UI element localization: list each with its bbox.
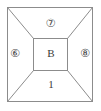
figure-container: ⑦ ⑥ ⑧ B 1 [0,0,101,111]
region-label-bottom: 1 [33,79,69,90]
region-label-top: ⑦ [0,18,101,29]
region-label-left: ⑥ [4,48,26,59]
region-label-center: B [33,48,69,59]
region-label-right: ⑧ [74,48,96,59]
